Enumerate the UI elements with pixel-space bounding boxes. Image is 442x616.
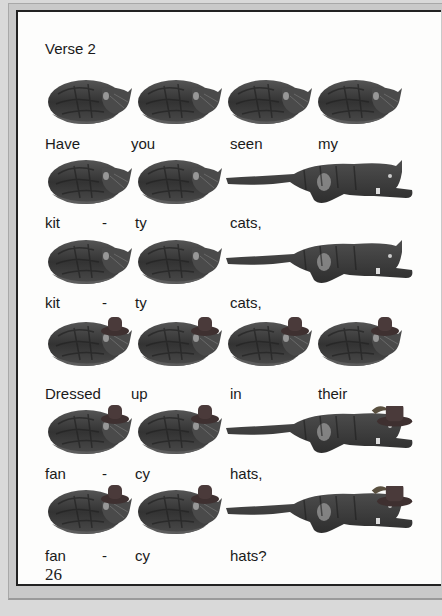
lyric-word: ty — [135, 294, 147, 311]
curled-cat-with-hat-image — [314, 316, 404, 368]
lyric-word: up — [131, 385, 148, 402]
stretched-cat-image — [224, 156, 414, 206]
lyric-word: hats? — [230, 547, 267, 564]
lyric-word: cats, — [230, 294, 262, 311]
curled-cat-image — [134, 234, 224, 286]
curled-cat-image — [224, 74, 314, 126]
curled-cat-with-hat-image — [44, 484, 134, 536]
lyric-word: Dressed — [45, 385, 101, 402]
lyric-word: - — [102, 547, 107, 564]
lyric-word: hats, — [230, 465, 263, 482]
curled-cat-with-hat-image — [224, 316, 314, 368]
lyric-word: - — [102, 294, 107, 311]
lyric-word: cy — [135, 547, 150, 564]
lyric-word: fan — [45, 547, 66, 564]
lyric-word: Have — [45, 135, 80, 152]
lyric-word: - — [102, 465, 107, 482]
curled-cat-with-hat-image — [134, 484, 224, 536]
lyric-word: my — [318, 135, 338, 152]
lyric-word: in — [230, 385, 242, 402]
lyric-word: fan — [45, 465, 66, 482]
stretched-cat-with-hat-image — [224, 486, 414, 536]
curled-cat-with-hat-image — [134, 404, 224, 456]
stretched-cat-image — [224, 236, 414, 286]
curled-cat-with-hat-image — [44, 404, 134, 456]
lyric-word: cy — [135, 465, 150, 482]
lyric-word: kit — [45, 294, 60, 311]
stretched-cat-with-hat-image — [224, 406, 414, 456]
lyric-word: kit — [45, 214, 60, 231]
curled-cat-with-hat-image — [134, 316, 224, 368]
curled-cat-image — [134, 154, 224, 206]
curled-cat-image — [134, 74, 224, 126]
lyric-word: their — [318, 385, 347, 402]
lyric-word: - — [102, 214, 107, 231]
lyric-word: ty — [135, 214, 147, 231]
lyric-word: you — [131, 135, 155, 152]
page-number: 26 — [45, 565, 62, 585]
curled-cat-image — [314, 74, 404, 126]
lyric-word: cats, — [230, 214, 262, 231]
curled-cat-image — [44, 234, 134, 286]
verse-title: Verse 2 — [45, 40, 96, 57]
curled-cat-with-hat-image — [44, 316, 134, 368]
lyric-word: seen — [230, 135, 263, 152]
curled-cat-image — [44, 74, 134, 126]
curled-cat-image — [44, 154, 134, 206]
